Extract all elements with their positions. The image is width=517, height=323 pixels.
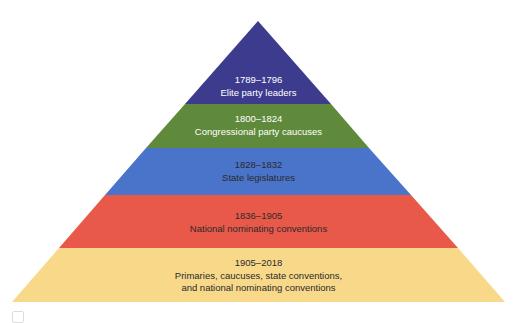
level-4-method: National nominating conventions — [0, 223, 517, 236]
level-4-label: 1836–1905 National nominating convention… — [0, 210, 517, 235]
level-2-method: Congressional party caucuses — [0, 126, 517, 139]
level-3-period: 1828–1832 — [0, 159, 517, 172]
level-1-method: Elite party leaders — [0, 87, 517, 100]
level-1-period: 1789–1796 — [0, 74, 517, 87]
level-5-method-line1: Primaries, caucuses, state conventions, — [0, 270, 517, 283]
level-5-method-line2: and national nominating conventions — [0, 282, 517, 295]
level-3-method: State legislatures — [0, 172, 517, 185]
level-5-label: 1905–2018 Primaries, caucuses, state con… — [0, 257, 517, 295]
level-2-label: 1800–1824 Congressional party caucuses — [0, 113, 517, 138]
level-3-label: 1828–1832 State legislatures — [0, 159, 517, 184]
level-1-label: 1789–1796 Elite party leaders — [0, 74, 517, 99]
page-corner-box — [12, 311, 24, 323]
level-4-period: 1836–1905 — [0, 210, 517, 223]
level-2-period: 1800–1824 — [0, 113, 517, 126]
level-5-period: 1905–2018 — [0, 257, 517, 270]
